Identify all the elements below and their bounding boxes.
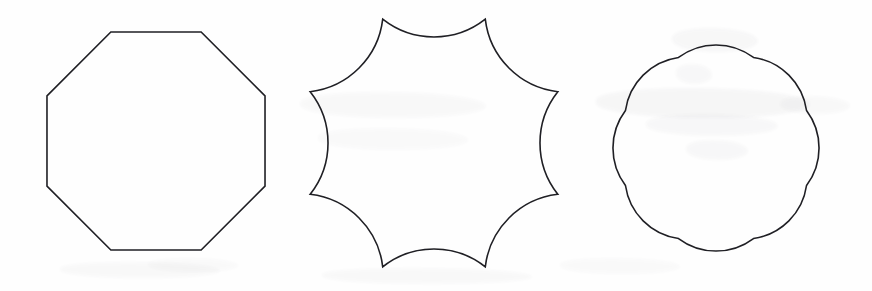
eight-point-star-shape bbox=[310, 19, 558, 267]
flower-cloud-shape bbox=[613, 45, 819, 251]
shapes-canvas bbox=[0, 0, 872, 291]
octagon-shape bbox=[47, 32, 265, 250]
figure-plate bbox=[0, 0, 872, 291]
